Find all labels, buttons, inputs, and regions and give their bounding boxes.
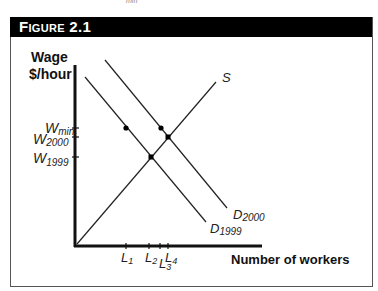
- supply-curve: [77, 82, 216, 244]
- y-axis-label-line1: Wage: [31, 49, 68, 65]
- x-tick-label-l1: L1: [121, 250, 133, 266]
- point-min-wage-d2000: [158, 125, 163, 130]
- x-tick-label-l4: L4: [165, 250, 177, 266]
- x-axis-label: Number of workers: [231, 252, 349, 267]
- demand-1999-label: D1999: [210, 221, 242, 237]
- point-equilibrium-2000: [166, 135, 171, 140]
- supply-curve-label: S: [222, 70, 231, 85]
- point-equilibrium-1999: [149, 155, 154, 160]
- supply-demand-chart: Wage $/hour Wmin W2000 W1999 L1 L2 L3 L4…: [0, 0, 378, 291]
- y-tick-label-w1999: W1999: [33, 150, 69, 168]
- demand-curve-1999: [85, 77, 206, 222]
- point-min-wage-d1999: [123, 125, 128, 130]
- x-tick-label-l2: L2: [145, 250, 157, 266]
- demand-curve-2000: [105, 60, 227, 208]
- y-axis-label-line2: $/hour: [29, 66, 72, 82]
- demand-2000-label: D2000: [233, 207, 265, 223]
- y-tick-label-wmin: Wmin: [45, 120, 75, 137]
